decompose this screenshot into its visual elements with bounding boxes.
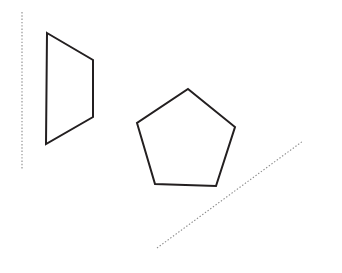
figure-canvas bbox=[0, 0, 342, 273]
canvas-background bbox=[0, 0, 342, 273]
figure-svg bbox=[0, 0, 342, 273]
